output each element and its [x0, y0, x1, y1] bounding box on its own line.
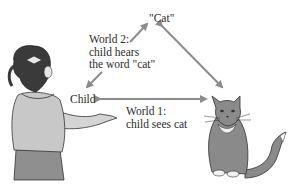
node-word-cat: "Cat" — [149, 12, 174, 25]
world2-label: World 2: child hears the word "cat" — [89, 33, 155, 71]
world1-label: World 1: child sees cat — [126, 105, 187, 130]
word-learning-diagram: "Cat" World 2: child hears the word "cat… — [0, 0, 293, 187]
node-child: Child — [70, 93, 96, 106]
cat-illustration — [0, 0, 293, 187]
world2-label-line2: child hears — [89, 46, 155, 59]
world1-label-line2: child sees cat — [126, 118, 187, 131]
world2-label-line1: World 2: — [89, 33, 155, 46]
world2-label-line3: the word "cat" — [89, 58, 155, 71]
world1-label-line1: World 1: — [126, 105, 187, 118]
